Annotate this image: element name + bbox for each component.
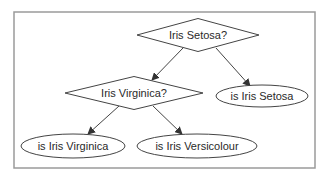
node-label: is Iris Setosa (231, 90, 295, 102)
node-label: Iris Virginica? (101, 87, 167, 99)
node-label: is Iris Versicolour (155, 140, 238, 152)
node-label: is Iris Virginica (38, 140, 110, 152)
node-label: Iris Setosa? (169, 29, 227, 41)
leaf-node-leaf_virginica: is Iris Virginica (21, 134, 125, 158)
leaf-node-leaf_versicolour: is Iris Versicolour (137, 134, 257, 158)
leaf-node-leaf_setosa: is Iris Setosa (216, 85, 308, 107)
decision-tree-diagram: Iris Setosa?Iris Virginica?is Iris Setos… (0, 0, 328, 175)
